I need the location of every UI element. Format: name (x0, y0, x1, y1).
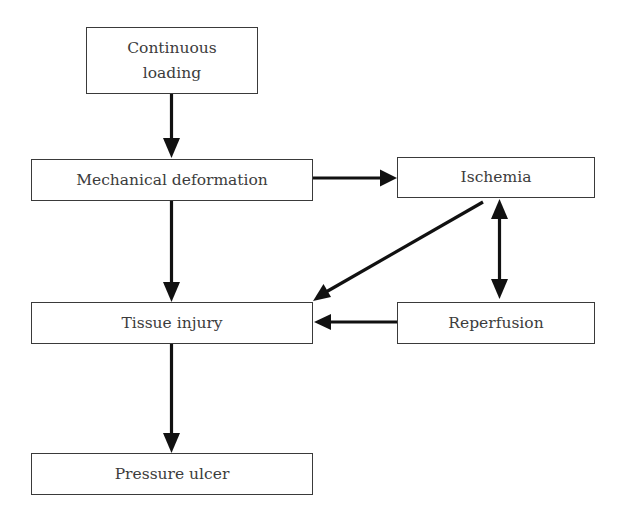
node-label: Ischemia (461, 165, 532, 190)
flow-diagram: Continuous loading Mechanical deformatio… (0, 0, 622, 521)
node-continuous-loading: Continuous loading (86, 27, 258, 94)
arrow-ischemia-reperfusion-bidirectional (491, 199, 508, 299)
node-label: Tissue injury (121, 311, 222, 336)
node-label-line2: loading (127, 61, 217, 86)
node-label-line1: Continuous (127, 36, 217, 61)
arrow-loading-to-deformation (163, 93, 180, 158)
arrow-ischemia-to-tissue-injury (313, 202, 483, 301)
node-mechanical-deformation: Mechanical deformation (31, 159, 313, 201)
node-ischemia: Ischemia (397, 157, 595, 198)
node-label: Pressure ulcer (115, 462, 230, 487)
node-label: Reperfusion (448, 311, 543, 336)
arrow-deformation-to-ischemia (312, 170, 397, 187)
node-tissue-injury: Tissue injury (31, 302, 313, 344)
arrow-tissue-injury-to-pressure-ulcer (163, 343, 180, 453)
arrow-reperfusion-to-tissue-injury (314, 314, 397, 330)
arrow-deformation-to-tissue-injury (163, 200, 180, 302)
node-reperfusion: Reperfusion (397, 302, 595, 344)
node-pressure-ulcer: Pressure ulcer (31, 453, 313, 495)
node-label: Mechanical deformation (76, 168, 268, 193)
